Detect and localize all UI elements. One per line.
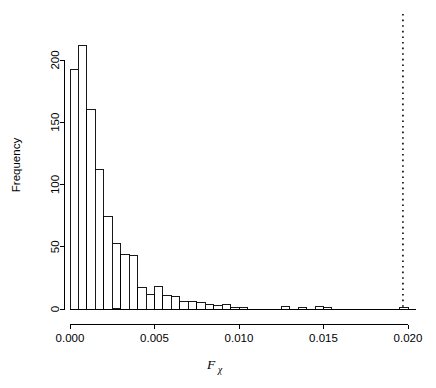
y-axis-tick-label: 0 xyxy=(49,306,61,312)
histogram-bar xyxy=(129,255,137,309)
histogram-bars xyxy=(70,45,416,309)
y-axis-tick-label: 50 xyxy=(49,240,61,253)
histogram-bar xyxy=(180,302,188,309)
x-axis-tick-label: 0.005 xyxy=(140,332,169,344)
y-axis: 050100150200 xyxy=(49,50,65,312)
y-axis-title: Frequency xyxy=(10,138,22,193)
histogram-bar xyxy=(171,297,179,309)
histogram-figure: 050100150200 0.0000.0050.0100.0150.020 F… xyxy=(0,0,436,388)
y-axis-tick-label: 200 xyxy=(49,50,61,69)
histogram-bar xyxy=(112,243,120,309)
histogram-bar xyxy=(138,288,146,309)
histogram-bar xyxy=(163,295,171,309)
x-axis-tick-label: 0.020 xyxy=(394,332,423,344)
histogram-bar xyxy=(95,170,103,309)
histogram-bar xyxy=(214,305,222,309)
histogram-bar xyxy=(222,304,230,309)
histogram-bar xyxy=(197,303,205,309)
x-axis-title: F χ xyxy=(206,357,223,375)
histogram-bar xyxy=(121,254,129,309)
x-axis-title-main: F xyxy=(206,357,216,372)
y-axis-tick-label: 150 xyxy=(49,113,61,132)
x-axis-tick-label: 0.010 xyxy=(225,332,254,344)
histogram-bar xyxy=(155,287,163,309)
x-axis-title-subscript: χ xyxy=(217,365,223,375)
histogram-bar xyxy=(146,294,154,309)
x-axis-tick-label: 0.000 xyxy=(56,332,85,344)
histogram-bar xyxy=(205,304,213,309)
histogram-bar xyxy=(104,217,112,309)
histogram-bar xyxy=(188,302,196,309)
histogram-bar xyxy=(78,45,86,309)
histogram-bar xyxy=(70,70,78,309)
x-axis-tick-label: 0.015 xyxy=(309,332,338,344)
histogram-bar xyxy=(87,110,95,309)
y-axis-tick-label: 100 xyxy=(49,175,61,194)
x-axis: 0.0000.0050.0100.0150.020 xyxy=(56,325,423,344)
histogram-canvas: 050100150200 0.0000.0050.0100.0150.020 F… xyxy=(0,0,436,388)
